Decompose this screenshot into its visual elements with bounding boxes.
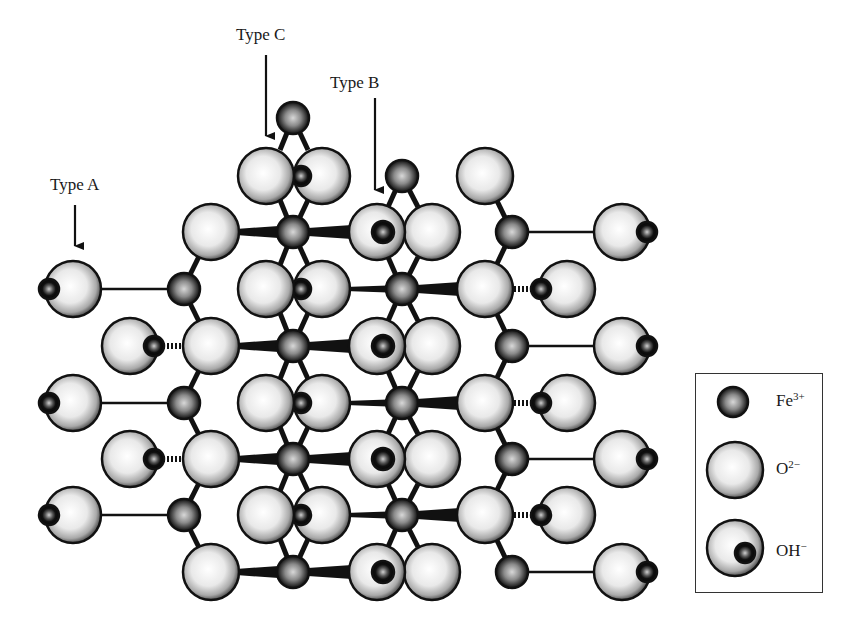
type-a-hydroxyls-left xyxy=(39,261,101,543)
legend-o-label: O2− xyxy=(776,458,800,479)
type-b-top-fe xyxy=(386,160,418,192)
terminal-hydroxyls-right xyxy=(594,204,657,600)
type-c-top-fe xyxy=(277,102,309,134)
legend-oh-label: OH− xyxy=(776,540,807,561)
h-bonded-hydroxyls-right xyxy=(531,261,595,543)
type-a-label: Type A xyxy=(50,175,99,195)
type-c-label: Type C xyxy=(236,25,285,45)
legend-fe-label: Fe3+ xyxy=(776,390,805,411)
type-b-label: Type B xyxy=(330,73,379,93)
